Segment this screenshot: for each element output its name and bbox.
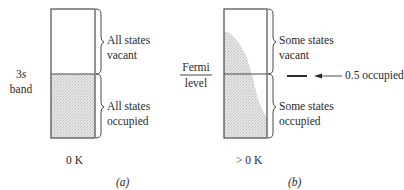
- temperature-b: > 0 K: [236, 153, 262, 168]
- label-all-vacant-line1: All states: [107, 33, 150, 48]
- band-box-b: [224, 9, 267, 138]
- label-all-occupied-line1: All states: [107, 99, 150, 114]
- band-label-line1: 3s: [6, 67, 36, 82]
- temperature-a: 0 K: [66, 153, 83, 168]
- label-some-vacant: Some states vacant: [279, 33, 334, 63]
- label-some-vacant-line2: vacant: [279, 48, 334, 63]
- label-all-occupied: All states occupied: [107, 99, 150, 129]
- label-all-vacant-line2: vacant: [107, 48, 150, 63]
- fermi-level-label: Fermi level: [178, 60, 214, 91]
- label-some-occupied-line1: Some states: [279, 99, 334, 114]
- brace-lower-a: [96, 74, 104, 138]
- band-name: 3s: [16, 68, 26, 80]
- arrow-left-icon: [314, 74, 342, 79]
- brace-lower-b: [268, 74, 276, 138]
- label-some-occupied-line2: occupied: [279, 114, 334, 129]
- fermi-label-line1: Fermi: [178, 60, 214, 75]
- band-label: 3s band: [6, 67, 36, 97]
- band-diagram: [0, 0, 404, 190]
- fermi-label-line2: level: [178, 76, 214, 91]
- occupied-region-a: [51, 74, 95, 138]
- brace-upper-b: [268, 9, 276, 74]
- label-some-vacant-line1: Some states: [279, 33, 334, 48]
- occupied-region-b: [224, 31, 267, 138]
- band-label-line2: band: [6, 82, 36, 97]
- caption-a: (a): [116, 175, 129, 190]
- label-some-occupied: Some states occupied: [279, 99, 334, 129]
- caption-b: (b): [288, 175, 301, 190]
- label-all-occupied-line2: occupied: [107, 114, 150, 129]
- label-all-vacant: All states vacant: [107, 33, 150, 63]
- half-occupied-label: 0.5 occupied: [345, 68, 404, 83]
- brace-upper-a: [96, 9, 104, 74]
- band-box-a: [51, 9, 95, 138]
